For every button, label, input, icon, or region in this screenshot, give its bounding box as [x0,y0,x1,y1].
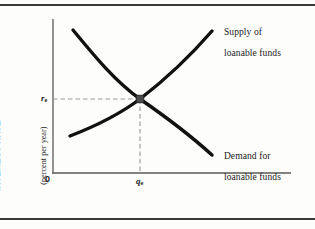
supply-label-line2: loanable funds [224,48,281,58]
y-axis-title-main: INTEREST RATE [0,91,3,221]
x-tick-symbol: q [136,176,141,186]
demand-curve [73,30,212,155]
y-axis-title-sub: (percent per year) [40,91,49,221]
supply-curve [70,31,212,136]
equilibrium-point-marker [136,95,144,103]
supply-curve-label: Supply of loanable funds [214,16,281,69]
supply-label-line1: Supply of [224,27,262,37]
x-tick-subscript: e [141,179,144,186]
demand-label-line1: Demand for [224,151,271,161]
page-rule-top [0,4,315,6]
demand-label-line2: loanable funds [224,172,281,182]
x-axis-tick-label-qe: qe [136,176,143,186]
x-axis-title-main: QUANTITY OF LOANABLE FUNDS [0,228,315,229]
loanable-funds-figure: Supply of loanable funds Demand for loan… [0,0,315,229]
y-axis-title: INTEREST RATE (percent per year) [0,91,85,221]
demand-curve-label: Demand for loanable funds [214,140,281,193]
